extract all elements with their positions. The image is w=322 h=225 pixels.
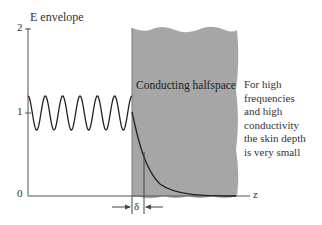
x-axis-label: z (253, 188, 258, 200)
sine-wave (28, 96, 132, 130)
note-line: the skin depth (244, 132, 306, 146)
note-line: frequencies (244, 92, 306, 106)
skin-depth-note: For high frequencies and high conductivi… (244, 78, 306, 159)
y-tick-0: 0 (17, 187, 23, 199)
note-line: For high (244, 78, 306, 92)
region-label: Conducting halfspace (136, 79, 236, 91)
note-line: is very small (244, 146, 306, 160)
delta-label: δ (134, 200, 139, 212)
note-line: and high (244, 105, 306, 119)
y-tick-2: 2 (17, 21, 23, 33)
note-line: conductivity (244, 119, 306, 133)
y-axis-label: E envelope (30, 10, 84, 25)
y-tick-1: 1 (17, 105, 23, 117)
conducting-halfspace-region (132, 27, 238, 199)
